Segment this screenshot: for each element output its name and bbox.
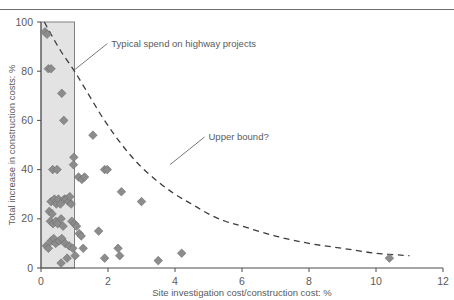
annotations-group: Typical spend on highway projectsUpper b… — [73, 38, 269, 165]
y-axis-tick-labels: 020406080100 — [15, 16, 33, 274]
y-tick-label: 100 — [15, 16, 33, 28]
x-tick-label: 12 — [437, 275, 449, 287]
data-point-marker — [100, 254, 109, 263]
annotation-label-typical-spend: Typical spend on highway projects — [111, 38, 256, 49]
annotation-label-upper-bound: Upper bound? — [209, 131, 269, 142]
x-tick-label: 6 — [239, 275, 245, 287]
x-tick-label: 4 — [172, 275, 178, 287]
x-tick-label: 8 — [306, 275, 312, 287]
y-tick-label: 0 — [27, 262, 33, 274]
data-point-marker — [177, 249, 186, 258]
data-points-group — [41, 28, 394, 268]
y-tick-label: 80 — [21, 65, 33, 77]
x-axis-title: Site investigation cost/construction cos… — [152, 287, 332, 298]
annotation-leader-line — [170, 137, 205, 165]
x-tick-label: 10 — [370, 275, 382, 287]
annotation-leader-line — [73, 44, 108, 72]
figure-container: 024681012 020406080100 Site investigatio… — [0, 0, 454, 300]
data-point-marker — [115, 251, 124, 260]
y-axis-ticks — [37, 22, 41, 268]
data-point-marker — [89, 131, 98, 140]
data-point-marker — [154, 256, 163, 265]
data-point-marker — [94, 227, 103, 236]
data-point-marker — [114, 244, 123, 253]
y-axis-title: Total increase in construction costs: % — [6, 64, 17, 226]
x-tick-label: 2 — [105, 275, 111, 287]
y-tick-label: 20 — [21, 212, 33, 224]
x-axis-tick-labels: 024681012 — [38, 275, 449, 287]
data-point-marker — [117, 187, 126, 196]
scatter-chart: 024681012 020406080100 Site investigatio… — [0, 0, 454, 300]
shaded-band-group — [41, 22, 75, 268]
data-point-marker — [79, 244, 88, 253]
x-tick-label: 0 — [38, 275, 44, 287]
y-tick-label: 40 — [21, 163, 33, 175]
y-tick-label: 60 — [21, 114, 33, 126]
x-axis-ticks — [41, 268, 443, 272]
typical-spend-band — [41, 22, 75, 268]
data-point-marker — [137, 197, 146, 206]
